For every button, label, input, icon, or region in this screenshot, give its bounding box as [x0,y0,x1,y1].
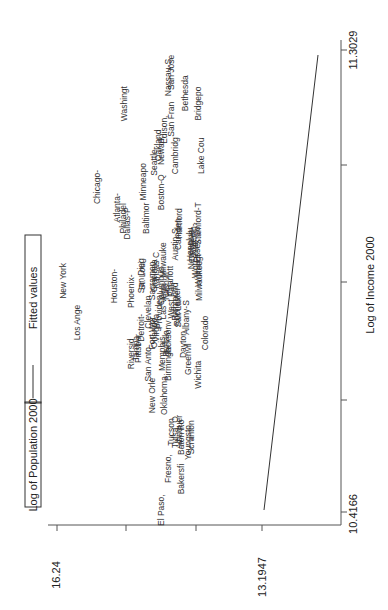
point-label: Greenvil [183,343,193,375]
point-label: Washingt [119,85,129,121]
rotated-scatter-chart: 16.24 13.1947 11.3029 10.4166 Log of Inc… [0,0,388,610]
point-label: San Fran [166,102,176,137]
point-label: Wichita [193,360,203,388]
point-label: Los Ange [72,305,82,341]
point-label: Birmingh [163,347,173,381]
point-label: Cambridg [170,137,180,174]
point-label: Chicago- [92,170,102,204]
point-labels: New YorkLos AngeChicago-Houston-Atlanta-… [58,54,209,526]
point-label: Lake Cou [196,137,206,174]
point-label: Bridgepo [193,86,203,120]
point-label: Milwaukee [194,261,204,301]
point-label: Minneapo [138,163,148,201]
population-tick-label-16.24: 16.24 [50,561,62,589]
point-label: Bakersfi [176,464,186,495]
point-label: New York [58,262,68,299]
legend-entry-population: Log of Population 2000 [27,398,39,511]
point-label: Albany-S [181,300,191,335]
income-tick-label-11.3029: 11.3029 [347,31,359,70]
legend-entry-fitted: Fitted values [27,266,39,329]
point-label: San Jose [166,54,176,90]
point-label: Stamford-T [193,202,203,245]
point-label: El Paso, [156,494,166,526]
population-tick-label-13.1947: 13.1947 [256,557,268,597]
point-label: Houston- [109,269,119,304]
income-axis-title: Log of Income 2000 [364,236,376,333]
point-label: Dallas-P [122,207,132,239]
point-label: Bethesda [180,75,190,111]
point-label: Scranton [186,420,196,454]
point-label: Colorado [200,315,210,350]
point-label: New Orle [147,378,157,414]
legend: Log of Population 2000 Fitted values [25,235,41,512]
point-label: Phoenix- [126,274,136,308]
point-label: Boston-Q [156,174,166,210]
point-label: Baltimor [141,203,151,234]
income-tick-label-10.4166: 10.4166 [347,494,359,534]
point-label: San Anto [143,347,153,382]
point-label: Hartford [174,208,184,239]
fitted-values-line [264,55,318,510]
point-label: Detroit- [136,314,146,342]
point-label: Fresno, [163,454,173,483]
point-label: St. Loui [137,261,147,290]
